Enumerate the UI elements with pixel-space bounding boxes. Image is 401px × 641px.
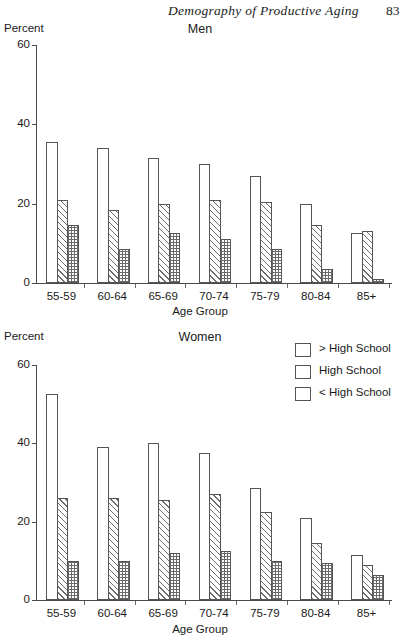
bar: [372, 279, 384, 283]
book-title: Demography of Productive Aging: [168, 3, 359, 19]
bar: [300, 204, 312, 283]
bar: [362, 231, 374, 283]
legend-label: > High School: [319, 342, 391, 354]
bar: [57, 200, 69, 283]
bar: [271, 249, 283, 283]
bar: [351, 555, 363, 600]
y-axis-tick-label: 0: [2, 593, 30, 605]
chart-women: Percent Women 604020055-5960-6465-6970-7…: [0, 330, 401, 641]
x-axis-tick-label: 85+: [343, 290, 391, 302]
bar: [169, 233, 181, 283]
x-axis-tick: [389, 601, 390, 605]
bar: [220, 551, 232, 600]
bar: [372, 575, 384, 600]
bar: [321, 269, 333, 283]
x-axis-tick: [236, 601, 237, 605]
x-axis-tick: [236, 284, 237, 288]
y-axis-tick-label: 60: [2, 38, 30, 50]
bar: [351, 233, 363, 283]
y-axis-tick: [32, 600, 36, 601]
legend-label: < High School: [319, 386, 391, 398]
bar: [199, 164, 211, 283]
x-axis-title-men: Age Group: [140, 305, 260, 317]
bar: [148, 158, 160, 283]
legend-item: > High School: [295, 342, 401, 359]
x-axis-tick: [185, 601, 186, 605]
x-axis-tick-label: 55-59: [37, 290, 85, 302]
x-axis-tick: [84, 601, 85, 605]
x-axis-tick-label: 65-69: [139, 607, 187, 619]
bar: [108, 498, 120, 600]
x-axis-tick-label: 60-64: [88, 607, 136, 619]
bar: [209, 200, 221, 283]
y-axis-line: [36, 45, 37, 284]
y-axis-tick-label: 40: [2, 117, 30, 129]
y-axis-line: [36, 365, 37, 601]
figure-page: Demography of Productive Aging 83 Percen…: [0, 0, 401, 641]
x-axis-tick: [135, 284, 136, 288]
bar: [67, 225, 79, 283]
plot-area-men: 604020055-5960-6465-6970-7475-7980-8485+: [0, 22, 401, 322]
legend-swatch-icon: [295, 365, 311, 379]
x-axis-tick-label: 60-64: [88, 290, 136, 302]
bar: [199, 453, 211, 600]
bar: [46, 142, 58, 283]
bar: [108, 210, 120, 283]
x-axis-tick-label: 80-84: [292, 290, 340, 302]
bar: [67, 561, 79, 600]
bar: [321, 563, 333, 600]
bar: [271, 561, 283, 600]
bar: [158, 204, 170, 283]
x-axis-tick-label: 75-79: [241, 607, 289, 619]
bar: [46, 394, 58, 600]
bar: [250, 488, 262, 600]
y-axis-tick-label: 20: [2, 197, 30, 209]
bar: [148, 443, 160, 600]
bar: [209, 494, 221, 600]
y-axis-tick: [32, 522, 36, 523]
legend-swatch-icon: [295, 387, 311, 401]
x-axis-tick: [135, 601, 136, 605]
legend-label: High School: [319, 364, 381, 376]
bar: [362, 565, 374, 600]
bar: [97, 148, 109, 283]
x-axis-tick-label: 70-74: [190, 607, 238, 619]
x-axis-tick: [185, 284, 186, 288]
x-axis-tick: [287, 284, 288, 288]
y-axis-tick: [32, 45, 36, 46]
x-axis-tick: [389, 284, 390, 288]
x-axis-tick: [338, 601, 339, 605]
x-axis-tick: [287, 601, 288, 605]
legend-item: < High School: [295, 386, 401, 403]
y-axis-tick: [32, 365, 36, 366]
y-axis-tick-label: 0: [2, 276, 30, 288]
bar: [220, 239, 232, 283]
bar: [118, 561, 130, 600]
x-axis-tick: [338, 284, 339, 288]
legend-swatch-icon: [295, 343, 311, 357]
x-axis-tick: [84, 284, 85, 288]
legend-item: High School: [295, 364, 401, 381]
running-head: Demography of Productive Aging 83: [0, 2, 401, 22]
bar: [260, 202, 272, 283]
y-axis-tick-label: 60: [2, 358, 30, 370]
x-axis-tick-label: 55-59: [37, 607, 85, 619]
bar: [300, 518, 312, 600]
bar: [57, 498, 69, 600]
x-axis-title-women: Age Group: [140, 623, 260, 635]
y-axis-tick-label: 20: [2, 515, 30, 527]
y-axis-tick: [32, 124, 36, 125]
x-axis-tick-label: 65-69: [139, 290, 187, 302]
page-number: 83: [386, 3, 400, 19]
bar: [250, 176, 262, 283]
y-axis-tick: [32, 204, 36, 205]
y-axis-tick: [32, 443, 36, 444]
x-axis-tick-label: 75-79: [241, 290, 289, 302]
bar: [118, 249, 130, 283]
y-axis-tick: [32, 283, 36, 284]
x-axis-tick-label: 85+: [343, 607, 391, 619]
bar: [311, 225, 323, 283]
bar: [97, 447, 109, 600]
y-axis-tick-label: 40: [2, 436, 30, 448]
bar: [158, 500, 170, 600]
